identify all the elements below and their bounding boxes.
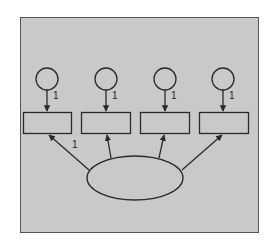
error-path-label-3: 1 — [171, 90, 177, 101]
error-path-label-4: 1 — [229, 90, 235, 101]
loading-label-1: 1 — [72, 139, 78, 150]
sem-diagram: 1 1 1 1 1 — [0, 0, 275, 243]
error-path-label-2: 1 — [112, 90, 118, 101]
error-path-label-1: 1 — [53, 90, 59, 101]
